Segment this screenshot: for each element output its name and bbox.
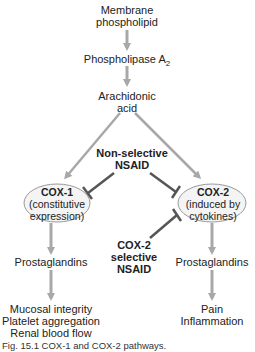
figure-caption: Fig. 15.1 COX-1 and COX-2 pathways.	[2, 340, 166, 351]
node-effects-cox1: Mucosal integrity Platelet aggregation R…	[2, 303, 100, 339]
arachidonic-line1: Arachidonic	[98, 90, 155, 102]
membrane-line1: Membrane	[96, 4, 158, 16]
effect-mucosal: Mucosal integrity	[2, 303, 100, 315]
cox2-line1: (induced by	[186, 198, 240, 210]
inhibit-nonselective-cox1	[88, 173, 114, 193]
cox1-title: COX-1	[29, 186, 85, 198]
inhibit-nonselective-cox2	[150, 173, 176, 192]
effect-platelet: Platelet aggregation	[2, 315, 100, 327]
cox1-line1: (constitutive	[29, 198, 85, 210]
nonselective-line1: Non-selective	[96, 147, 168, 159]
selective-line2: selective	[111, 251, 157, 263]
label-nonselective-nsaid: Non-selective NSAID	[96, 147, 168, 171]
pla2-subscript: 2	[166, 59, 170, 68]
selective-line3: NSAID	[111, 263, 157, 275]
arachidonic-line2: acid	[98, 102, 155, 114]
node-prostaglandins-left: Prostaglandins	[15, 256, 88, 268]
label-cox2-selective-nsaid: COX-2 selective NSAID	[111, 239, 157, 275]
selective-line1: COX-2	[111, 239, 157, 251]
node-arachidonic-acid: Arachidonic acid	[98, 90, 155, 114]
cox2-line2: cytokines)	[186, 210, 240, 222]
node-membrane-phospholipid: Membrane phospholipid	[96, 4, 158, 28]
node-phospholipase-a2: Phospholipase A2	[84, 53, 170, 70]
cox1-line2: expression)	[29, 210, 85, 222]
pla2-text: Phospholipase A	[84, 53, 166, 65]
effect-inflammation: Inflammation	[181, 315, 244, 327]
inhibit-selective-cox2	[150, 215, 177, 238]
effect-renal: Renal blood flow	[2, 327, 100, 339]
node-cox1: COX-1 (constitutive expression)	[29, 186, 85, 222]
cox2-title: COX-2	[186, 186, 240, 198]
node-effects-cox2: Pain Inflammation	[181, 303, 244, 327]
node-prostaglandins-right: Prostaglandins	[176, 256, 249, 268]
effect-pain: Pain	[181, 303, 244, 315]
nonselective-line2: NSAID	[96, 159, 168, 171]
membrane-line2: phospholipid	[96, 16, 158, 28]
node-cox2: COX-2 (induced by cytokines)	[186, 186, 240, 222]
